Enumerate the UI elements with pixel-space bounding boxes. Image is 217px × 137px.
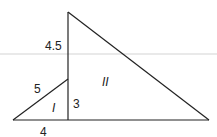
large-hypotenuse — [68, 12, 209, 120]
label-3: 3 — [73, 97, 80, 111]
region-label-i: I — [52, 101, 56, 115]
label-5: 5 — [34, 82, 41, 96]
label-4: 4 — [40, 125, 47, 137]
region-label-ii: II — [102, 75, 109, 89]
triangle-diagram: 4.5 5 3 4 I II — [0, 0, 217, 137]
label-4-5: 4.5 — [45, 39, 62, 53]
